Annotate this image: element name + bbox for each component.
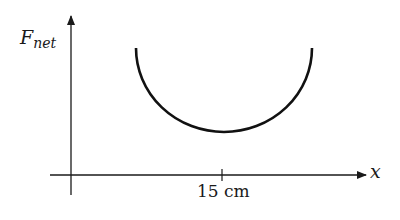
force-vs-position-diagram: Fnet x 15 cm [0,0,400,220]
x-axis-label: x [370,160,381,182]
x-tick-label: 15 cm [197,181,250,201]
y-axis-label: Fnet [20,26,56,51]
force-curve [136,48,312,132]
